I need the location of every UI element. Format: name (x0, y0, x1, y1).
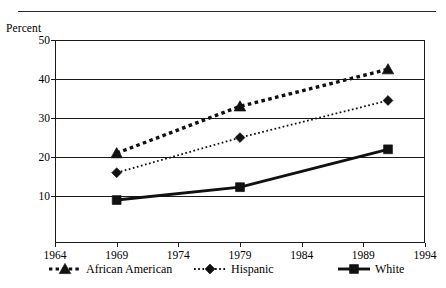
legend-label: African American (86, 262, 172, 276)
data-point-marker (112, 196, 121, 205)
x-tick-label-1964: 1964 (44, 249, 67, 261)
x-tick-label-1989: 1989 (352, 249, 375, 261)
x-tick-label-1979: 1979 (229, 249, 252, 261)
y-tick-label-20: 20 (39, 151, 51, 163)
data-point-marker (236, 183, 245, 192)
series-hispanic (112, 96, 393, 178)
series-line (117, 149, 388, 200)
top-divider-rule (18, 11, 436, 12)
y-tick-label-10: 10 (39, 190, 51, 202)
x-tick-mark-1984 (302, 243, 303, 247)
x-tick-label-1994: 1994 (414, 249, 437, 261)
x-tick-label-1984: 1984 (290, 249, 313, 261)
x-tick-mark-1964 (55, 243, 56, 247)
x-tick-label-1974: 1974 (167, 249, 190, 261)
y-tick-label-30: 30 (39, 112, 51, 124)
data-point-marker (383, 96, 393, 106)
chart-legend: African AmericanHispanicWhite (0, 262, 446, 282)
legend-label: Hispanic (231, 262, 274, 276)
legend-label: White (375, 262, 404, 276)
x-tick-mark-1989 (363, 243, 364, 247)
y-axis-caption: Percent (6, 22, 41, 35)
x-tick-mark-1979 (240, 243, 241, 247)
series-white (112, 145, 392, 205)
chart-figure: Percent 1020304050 196419691974197919841… (0, 0, 446, 288)
x-tick-label-1969: 1969 (105, 249, 128, 261)
legend-item-hispanic[interactable]: Hispanic (193, 262, 274, 276)
data-point-marker (111, 148, 122, 158)
plot-area: 1020304050 1964196919741979198419891994 (55, 40, 425, 243)
data-point-marker (384, 145, 393, 154)
data-point-marker (235, 133, 245, 143)
legend-item-african-american[interactable]: African American (48, 262, 172, 276)
series-african-american (111, 64, 394, 158)
series-layer (55, 40, 425, 243)
series-line (117, 69, 388, 153)
square-marker-icon (337, 262, 371, 276)
diamond-marker-icon (193, 262, 227, 276)
data-point-marker (112, 168, 122, 178)
x-tick-mark-1994 (425, 243, 426, 247)
legend-item-white[interactable]: White (337, 262, 404, 276)
x-tick-mark-1974 (178, 243, 179, 247)
triangle-marker-icon (48, 262, 82, 276)
y-tick-label-50: 50 (39, 34, 51, 46)
x-tick-mark-1969 (117, 243, 118, 247)
y-tick-label-40: 40 (39, 73, 51, 85)
